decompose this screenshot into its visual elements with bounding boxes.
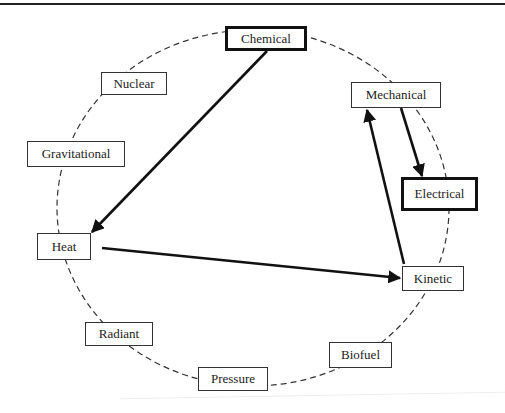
arrow-mechanical-to-electrical bbox=[401, 108, 422, 176]
node-label: Pressure bbox=[211, 371, 255, 387]
node-pressure: Pressure bbox=[198, 367, 268, 391]
node-mechanical: Mechanical bbox=[351, 82, 441, 108]
node-electrical: Electrical bbox=[401, 177, 478, 211]
node-label: Biofuel bbox=[341, 347, 380, 363]
node-label: Gravitational bbox=[42, 146, 111, 162]
node-label: Chemical bbox=[241, 31, 291, 47]
node-label: Nuclear bbox=[113, 76, 154, 92]
node-nuclear: Nuclear bbox=[101, 72, 167, 95]
node-label: Radiant bbox=[99, 326, 139, 342]
node-gravitational: Gravitational bbox=[27, 141, 125, 167]
node-biofuel: Biofuel bbox=[329, 342, 392, 368]
node-label: Heat bbox=[52, 239, 77, 255]
energy-diagram: ChemicalNuclearMechanicalGravitationalEl… bbox=[0, 0, 505, 413]
node-chemical: Chemical bbox=[225, 26, 307, 51]
arrow-kinetic-to-mechanical bbox=[367, 110, 404, 264]
node-label: Mechanical bbox=[366, 87, 427, 103]
node-label: Electrical bbox=[415, 186, 465, 202]
node-heat: Heat bbox=[37, 233, 91, 260]
node-label: Kinetic bbox=[414, 271, 452, 287]
arrow-heat-to-kinetic bbox=[102, 248, 400, 278]
node-kinetic: Kinetic bbox=[402, 266, 464, 291]
node-radiant: Radiant bbox=[85, 322, 153, 346]
